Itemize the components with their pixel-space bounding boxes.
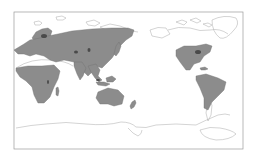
world-distribution-map	[0, 0, 257, 156]
